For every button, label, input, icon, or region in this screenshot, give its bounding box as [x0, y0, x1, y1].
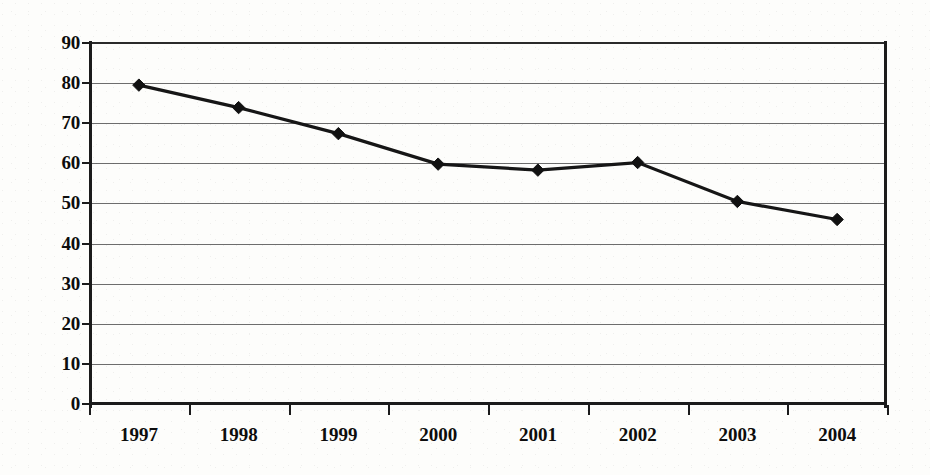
data-point-marker: [133, 79, 145, 91]
x-axis-tick: [588, 405, 590, 415]
plot-frame-right: [884, 41, 887, 408]
y-axis-tick-label: 40: [34, 234, 80, 253]
x-axis-tick: [488, 405, 490, 415]
y-axis-tick-label: 0: [34, 394, 80, 413]
x-axis-tick-label: 1997: [89, 425, 189, 444]
y-axis-tick-label: 70: [34, 113, 80, 132]
y-axis-tick: [82, 42, 91, 44]
y-axis-tick: [82, 403, 91, 405]
x-axis-tick: [787, 405, 789, 415]
y-axis-tick: [82, 323, 91, 325]
y-axis-tick-label: 90: [34, 33, 80, 52]
x-axis-tick: [688, 405, 690, 415]
y-axis-tick-label: 10: [34, 354, 80, 373]
y-axis-tick-label: 80: [34, 73, 80, 92]
x-axis-tick-label: 2002: [588, 425, 688, 444]
data-point-marker: [332, 127, 344, 139]
data-point-marker: [232, 101, 244, 113]
y-axis-tick: [82, 122, 91, 124]
plot-frame-top: [89, 42, 887, 44]
y-axis-tick-label: 50: [34, 193, 80, 212]
gridline: [89, 203, 887, 204]
gridline: [89, 244, 887, 245]
x-axis-tick: [289, 405, 291, 415]
x-axis-tick-label: 2004: [787, 425, 887, 444]
y-axis-line: [89, 41, 92, 408]
x-axis-tick: [89, 405, 91, 415]
data-point-marker: [831, 213, 843, 225]
y-axis-tick: [82, 283, 91, 285]
y-axis-tick: [82, 202, 91, 204]
y-axis-tick: [82, 243, 91, 245]
gridline: [89, 284, 887, 285]
data-point-marker: [731, 195, 743, 207]
gridline: [89, 364, 887, 365]
x-axis-tick-label: 2001: [488, 425, 588, 444]
y-axis-tick: [82, 162, 91, 164]
gridline: [89, 163, 887, 164]
y-axis-tick-label: 30: [34, 274, 80, 293]
data-point-marker: [532, 164, 544, 176]
series-line-1: [139, 85, 837, 219]
x-axis-tick-label: 1999: [288, 425, 388, 444]
line-chart: 0102030405060708090 19971998199920002001…: [0, 0, 930, 475]
gridline: [89, 123, 887, 124]
x-axis-tick: [887, 405, 889, 415]
y-axis: 0102030405060708090: [18, 0, 80, 475]
y-axis-tick: [82, 82, 91, 84]
y-axis-tick-label: 20: [34, 314, 80, 333]
y-axis-tick: [82, 363, 91, 365]
gridline: [89, 324, 887, 325]
x-axis-tick: [388, 405, 390, 415]
x-axis-tick-label: 1998: [189, 425, 289, 444]
x-axis-tick-label: 2000: [388, 425, 488, 444]
x-axis-tick: [189, 405, 191, 415]
gridline: [89, 83, 887, 84]
x-axis-tick-label: 2003: [687, 425, 787, 444]
y-axis-tick-label: 60: [34, 153, 80, 172]
